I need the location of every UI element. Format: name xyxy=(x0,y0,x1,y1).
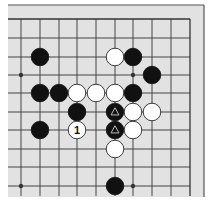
go-board: 1 xyxy=(0,0,211,205)
white-stone xyxy=(124,121,142,139)
white-stone xyxy=(106,84,124,102)
white-stone xyxy=(106,140,124,158)
star-point xyxy=(131,184,135,188)
black-stone xyxy=(106,121,124,139)
move-number-label: 1 xyxy=(74,124,80,136)
black-stone xyxy=(143,66,161,84)
white-stone xyxy=(124,103,142,121)
black-stone xyxy=(106,177,124,195)
black-stone xyxy=(31,84,49,102)
black-stone xyxy=(124,48,142,66)
black-stone xyxy=(31,121,49,139)
black-stone xyxy=(31,48,49,66)
black-stone xyxy=(68,103,86,121)
star-point xyxy=(131,73,135,77)
white-stone xyxy=(87,84,105,102)
white-stone xyxy=(143,103,161,121)
star-point xyxy=(19,73,23,77)
star-point xyxy=(19,184,23,188)
white-stone: 1 xyxy=(68,121,86,139)
white-stone xyxy=(106,48,124,66)
white-stone xyxy=(68,84,86,102)
black-stone xyxy=(124,84,142,102)
black-stone xyxy=(106,103,124,121)
black-stone xyxy=(50,84,68,102)
